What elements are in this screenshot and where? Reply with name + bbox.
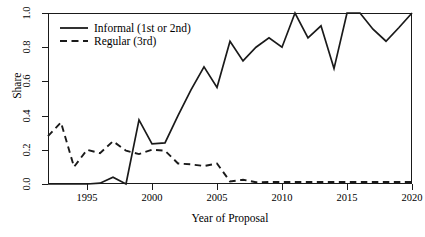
legend-item-regular: Regular (3rd): [59, 34, 234, 47]
x-axis-tick: [217, 184, 218, 190]
x-axis-tick-label: 2005: [197, 192, 237, 203]
x-axis-tick: [412, 184, 413, 190]
y-axis-tick: [42, 150, 48, 151]
y-axis-tick-label: 0.2: [21, 137, 33, 163]
legend-label-regular: Regular (3rd): [89, 35, 156, 47]
y-axis-tick-label: 0.0: [21, 171, 33, 197]
y-axis-title: Share: [12, 56, 24, 116]
x-axis-tick-label: 2015: [327, 192, 367, 203]
x-axis-tick: [282, 184, 283, 190]
x-axis-tick-label: 2000: [132, 192, 172, 203]
x-axis-tick: [347, 184, 348, 190]
legend-key-solid-line-icon: [59, 22, 89, 34]
y-axis-tick-label: 1.0: [21, 0, 33, 26]
legend-key-dashed-line-icon: [59, 35, 89, 47]
y-axis-tick: [42, 116, 48, 117]
y-axis-tick: [42, 13, 48, 14]
x-axis-tick-label: 2010: [262, 192, 302, 203]
x-axis-tick: [87, 184, 88, 190]
x-axis-tick-label: 2020: [392, 192, 425, 203]
y-axis-tick: [42, 81, 48, 82]
legend-item-informal: Informal (1st or 2nd): [59, 21, 234, 34]
x-axis-tick: [152, 184, 153, 190]
x-axis-title: Year of Proposal: [48, 212, 412, 224]
x-axis-tick-label: 1995: [67, 192, 107, 203]
chart-legend: Informal (1st or 2nd) Regular (3rd): [59, 21, 234, 47]
y-axis-tick: [42, 184, 48, 185]
chart-figure: 0.00.20.40.60.81.0 Share 199520002005201…: [0, 0, 425, 237]
y-axis-tick: [42, 47, 48, 48]
series-line-regular: [48, 122, 412, 182]
legend-label-informal: Informal (1st or 2nd): [89, 22, 191, 34]
